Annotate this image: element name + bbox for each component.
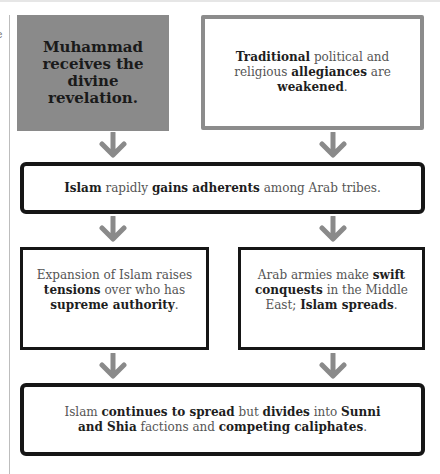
arrow-down-icon: [98, 216, 128, 242]
body-text: .: [394, 298, 398, 312]
box-text: Islam continues to spread but divides in…: [64, 405, 381, 435]
emphasis-text: divides: [263, 405, 310, 419]
arrow-down-icon: [318, 132, 348, 158]
emphasis-text: Islam spreads: [300, 298, 394, 312]
emphasis-text: supreme authority: [50, 298, 175, 312]
box-allegiances-weakened: Traditional political and religious alle…: [201, 15, 424, 130]
body-text: into: [310, 405, 341, 419]
body-text: over who has: [101, 283, 186, 297]
arrow-down-icon: [98, 132, 128, 158]
arrow-down-icon: [318, 353, 348, 379]
box-muhammad-revelation: Muhammad receives the divine revelation.: [17, 15, 169, 131]
box-sunni-shia-divide: Islam continues to spread but divides in…: [20, 383, 425, 456]
box-text: Arab armies make swift conquests in the …: [253, 268, 410, 313]
cropped-text-fragment: e: [0, 28, 3, 41]
body-text: rapidly: [102, 181, 152, 195]
body-text: .: [175, 298, 179, 312]
body-text: Expansion of Islam raises: [37, 268, 193, 282]
emphasis-text: tensions: [44, 283, 101, 297]
box-text: Traditional political and religious alle…: [215, 50, 410, 95]
margin-rule: [9, 15, 10, 474]
top-divider: [0, 0, 440, 2]
emphasis-text: weakened: [277, 80, 343, 94]
body-text: but: [235, 405, 263, 419]
arrow-down-icon: [98, 353, 128, 379]
body-text: .: [363, 420, 367, 434]
emphasis-text: competing caliphates: [219, 420, 363, 434]
body-text: are: [367, 65, 391, 79]
arrow-down-icon: [318, 216, 348, 242]
emphasis-text: continues to spread: [102, 405, 235, 419]
body-text: .: [344, 80, 348, 94]
body-text: Islam: [64, 405, 101, 419]
box-swift-conquests: Arab armies make swift conquests in the …: [238, 247, 425, 350]
box-text: Islam rapidly gains adherents among Arab…: [64, 181, 381, 196]
box-text: Expansion of Islam raises tensions over …: [35, 268, 194, 313]
box-gains-adherents: Islam rapidly gains adherents among Arab…: [20, 162, 425, 214]
box-tensions-authority: Expansion of Islam raises tensions over …: [20, 247, 209, 350]
emphasis-text: allegiances: [291, 65, 367, 79]
emphasis-text: Traditional: [236, 50, 310, 64]
body-text: among Arab tribes.: [260, 181, 381, 195]
body-text: Arab armies make: [258, 268, 373, 282]
box-text: Muhammad receives the divine revelation.: [23, 39, 163, 107]
emphasis-text: gains adherents: [152, 181, 260, 195]
body-text: factions and: [137, 420, 219, 434]
emphasis-text: Islam: [64, 181, 101, 195]
